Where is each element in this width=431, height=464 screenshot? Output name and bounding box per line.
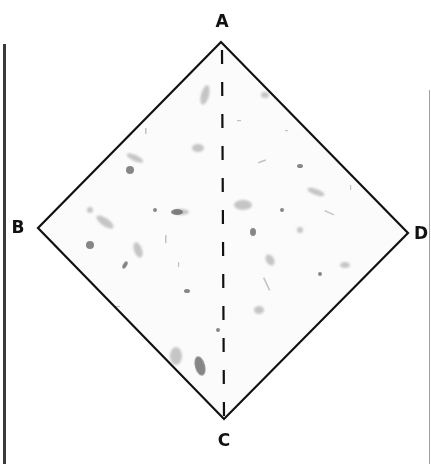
paper-square	[38, 42, 408, 419]
right-margin-rule	[429, 90, 430, 464]
left-margin-rule	[3, 44, 6, 464]
vertex-label-c: C	[218, 432, 230, 449]
vertex-label-b: B	[12, 219, 25, 236]
vertex-label-a: A	[215, 13, 228, 30]
vertex-label-d: D	[414, 225, 428, 242]
diamond-diagram	[0, 0, 431, 464]
